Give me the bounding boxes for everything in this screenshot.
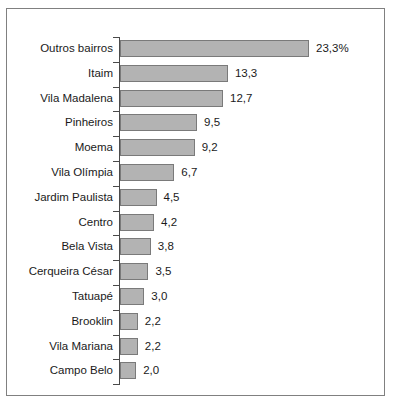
bar-row: Campo Belo2,0 [7,359,385,384]
bar [120,114,197,131]
bar-category-label: Jardim Paulista [7,190,113,205]
bar-value-label: 4,2 [161,215,177,230]
bar [120,214,154,231]
axis-tick [113,136,119,137]
bar [120,338,138,355]
bar [120,238,151,255]
bar-category-label: Pinheiros [7,115,113,130]
bar-value-label: 13,3 [235,66,257,81]
bar [120,65,228,82]
bar-category-label: Vila Olímpia [7,165,113,180]
axis-tick [113,161,119,162]
axis-tick [113,384,119,385]
bar-category-label: Centro [7,215,113,230]
bar-value-label: 2,0 [143,363,159,378]
bar-row: Bela Vista3,8 [7,235,385,260]
bar-category-label: Cerqueira César [7,264,113,279]
bar-category-label: Bela Vista [7,239,113,254]
bar [120,288,144,305]
bar-value-label: 9,5 [204,115,220,130]
bar-row: Brooklin2,2 [7,310,385,335]
bar-row: Centro4,2 [7,211,385,236]
bar-row: Cerqueira César3,5 [7,260,385,285]
axis-tick [113,335,119,336]
bar [120,189,157,206]
bar [120,263,148,280]
bar-category-label: Brooklin [7,314,113,329]
bar [120,40,309,57]
bar-category-label: Tatuapé [7,289,113,304]
axis-tick [113,235,119,236]
bar-value-label: 3,5 [155,264,171,279]
bar-value-label: 6,7 [181,165,197,180]
bar-row: Vila Mariana2,2 [7,335,385,360]
bar [120,90,223,107]
axis-tick [113,211,119,212]
bar-value-label: 12,7 [230,91,252,106]
bar-row: Vila Olímpia6,7 [7,161,385,186]
bar-row: Outros bairros23,3% [7,37,385,62]
bar-value-label: 3,0 [151,289,167,304]
bar-row: Moema9,2 [7,136,385,161]
bar-value-label: 9,2 [202,140,218,155]
bar-value-label: 4,5 [164,190,180,205]
bar-row: Vila Madalena12,7 [7,87,385,112]
chart-frame: Outros bairros23,3%Itaim13,3Vila Madalen… [6,8,385,396]
bar [120,313,138,330]
axis-tick [113,186,119,187]
bar-category-label: Vila Madalena [7,91,113,106]
bar-row: Tatuapé3,0 [7,285,385,310]
bar-value-label: 2,2 [145,314,161,329]
bar-chart-plot-area: Outros bairros23,3%Itaim13,3Vila Madalen… [7,9,385,396]
axis-tick [113,111,119,112]
bar [120,164,174,181]
axis-tick [113,260,119,261]
bar [120,362,136,379]
bar-value-label: 2,2 [145,339,161,354]
axis-tick [113,285,119,286]
axis-tick [113,87,119,88]
bar-category-label: Campo Belo [7,363,113,378]
bar-value-label: 3,8 [158,239,174,254]
axis-tick [113,310,119,311]
bar-category-label: Moema [7,140,113,155]
axis-tick [113,359,119,360]
bar [120,139,195,156]
bar-category-label: Itaim [7,66,113,81]
bar-category-label: Outros bairros [7,41,113,56]
bar-row: Jardim Paulista4,5 [7,186,385,211]
bar-value-label: 23,3% [316,41,349,56]
axis-tick [113,37,119,38]
bar-category-label: Vila Mariana [7,339,113,354]
bar-row: Itaim13,3 [7,62,385,87]
axis-tick [113,62,119,63]
bar-row: Pinheiros9,5 [7,111,385,136]
